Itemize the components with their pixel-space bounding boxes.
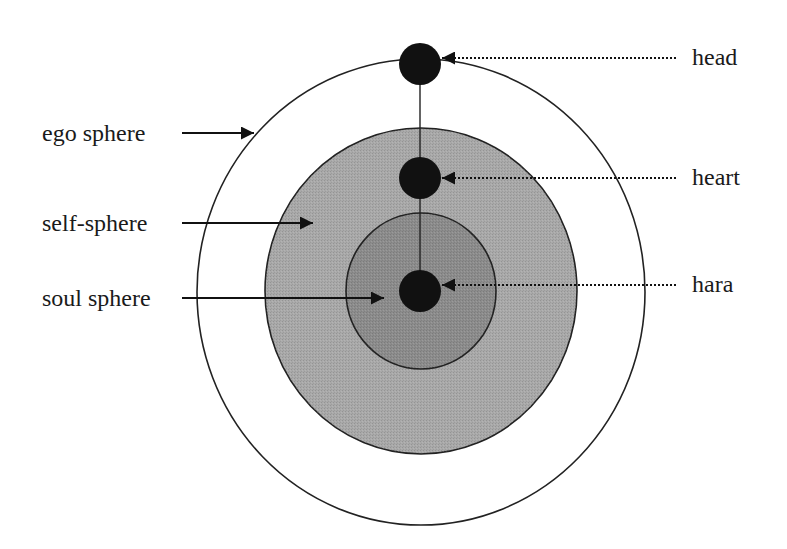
self-sphere-label: self-sphere — [42, 210, 147, 236]
head-dot — [399, 43, 441, 85]
ego-sphere-label: ego sphere — [42, 120, 145, 146]
soul-sphere-label: soul sphere — [42, 285, 151, 311]
hara-label: hara — [692, 271, 734, 297]
heart-dot — [399, 157, 441, 199]
heart-label: heart — [692, 164, 740, 190]
head-label: head — [692, 44, 737, 70]
hara-dot — [399, 270, 441, 312]
sphere-diagram: ego sphere self-sphere soul sphere head … — [0, 0, 787, 549]
